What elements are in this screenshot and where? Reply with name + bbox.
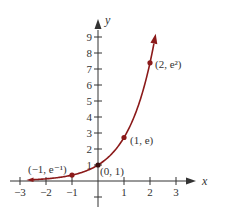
exp-curve	[30, 44, 153, 180]
y-tick-label: 3	[87, 127, 93, 139]
data-point	[69, 173, 74, 178]
x-tick-label: 2	[147, 186, 153, 198]
curve-arrow-up-icon	[150, 34, 157, 44]
y-ticks: 123456789	[87, 31, 103, 171]
y-axis-label: y	[104, 13, 111, 27]
y-tick-label: 2	[87, 143, 93, 155]
y-tick-label: 9	[87, 31, 93, 43]
point-label-2: (2, e²)	[155, 58, 182, 71]
chart-svg: x y −3−2−1123 123456789 (−1, e⁻¹) (0, 1)…	[0, 0, 225, 219]
point-label-neg1: (−1, e⁻¹)	[28, 163, 67, 176]
y-tick-label: 8	[87, 47, 93, 59]
point-label-0: (0, 1)	[100, 165, 124, 178]
x-tick-label: −1	[66, 186, 78, 198]
x-tick-label: −3	[14, 186, 26, 198]
x-tick-label: 1	[121, 186, 127, 198]
data-point	[121, 135, 126, 140]
x-axis-arrow-icon	[186, 178, 196, 185]
y-tick-label: 6	[87, 79, 93, 91]
y-axis: y	[94, 13, 111, 207]
y-tick-label: 5	[87, 95, 93, 107]
data-point	[147, 60, 152, 65]
exponential-graph: x y −3−2−1123 123456789 (−1, e⁻¹) (0, 1)…	[0, 0, 225, 219]
x-tick-label: 3	[173, 186, 179, 198]
y-tick-label: 7	[87, 63, 93, 75]
marked-points	[69, 60, 152, 178]
x-axis-label: x	[201, 174, 208, 188]
y-axis-arrow-icon	[95, 19, 102, 29]
point-label-1: (1, e)	[130, 134, 154, 147]
x-tick-label: −2	[40, 186, 52, 198]
y-tick-label: 4	[87, 111, 93, 123]
